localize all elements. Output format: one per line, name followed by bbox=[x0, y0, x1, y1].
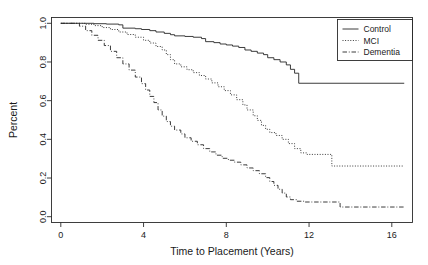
y-tick-label: 1.0 bbox=[39, 17, 49, 30]
y-tick-label: 0.4 bbox=[39, 133, 49, 146]
x-tick-label: 4 bbox=[141, 230, 146, 240]
survival-plot-figure: 04812160.00.20.40.60.81.0Time to Placeme… bbox=[0, 0, 428, 265]
legend-label-mci: MCI bbox=[364, 36, 380, 46]
curves-group bbox=[61, 23, 404, 207]
legend-label-control: Control bbox=[364, 24, 392, 34]
y-tick-label: 0.6 bbox=[39, 94, 49, 107]
legend-label-dementia: Dementia bbox=[364, 47, 401, 57]
chart-legend: ControlMCIDementia bbox=[338, 20, 413, 61]
x-tick-label: 12 bbox=[304, 230, 314, 240]
chart-canvas: 04812160.00.20.40.60.81.0Time to Placeme… bbox=[0, 0, 428, 265]
x-tick-label: 8 bbox=[224, 230, 229, 240]
axis-labels-group: 04812160.00.20.40.60.81.0Time to Placeme… bbox=[7, 17, 397, 257]
y-tick-label: 0.8 bbox=[39, 56, 49, 69]
x-axis-title: Time to Placement (Years) bbox=[170, 245, 294, 257]
y-tick-label: 0.2 bbox=[39, 172, 49, 185]
axes-group bbox=[47, 18, 413, 228]
plot-frame bbox=[52, 18, 413, 223]
curve-dementia bbox=[61, 23, 404, 207]
y-tick-label: 0.0 bbox=[39, 210, 49, 223]
x-tick-label: 16 bbox=[387, 230, 397, 240]
y-axis-title: Percent bbox=[7, 102, 19, 138]
x-tick-label: 0 bbox=[58, 230, 63, 240]
curve-control bbox=[61, 23, 404, 83]
